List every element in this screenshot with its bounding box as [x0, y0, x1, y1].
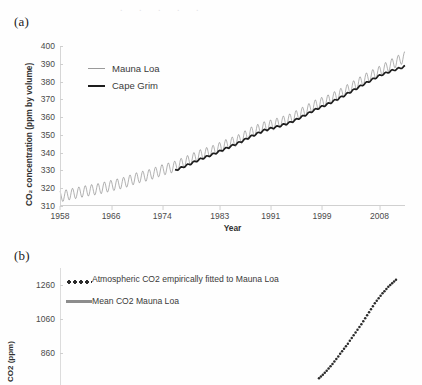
line-swatch-icon	[88, 85, 105, 87]
legend-label: Atmospheric CO2 empirically fitted to Ma…	[92, 274, 279, 285]
panel-a-xtick: 2008	[370, 211, 389, 221]
legend-label: Mean CO2 Mauna Loa	[92, 296, 179, 307]
panel-a-ytick: 390	[41, 59, 60, 69]
panel-a-ytick: 380	[41, 77, 60, 87]
panel-a-label: (a)	[14, 14, 29, 30]
panel-a-x-axis-title: Year	[60, 223, 405, 233]
panel-a-ytick: 360	[41, 112, 60, 122]
panel-b-ytick: 860	[41, 348, 60, 358]
panel-a-xtick: 1983	[210, 211, 229, 221]
line-swatch-icon	[88, 68, 105, 69]
legend-item-mean-co2-mauna-loa: Mean CO2 Mauna Loa	[66, 296, 316, 307]
panel-b-ytick: 1060	[36, 314, 60, 324]
legend-label: Cape Grim	[112, 80, 158, 91]
series-atmospheric-co2-fit	[318, 278, 398, 379]
series-cape-grim	[175, 66, 405, 171]
panel-a-ytick: 400	[41, 41, 60, 51]
panel-a-xtick: 1958	[51, 211, 70, 221]
panel-a-ytick: 310	[41, 201, 60, 211]
legend-item-cape-grim: Cape Grim	[88, 77, 160, 94]
figure-container: . . . . . (a) CO₂ concentration (ppm by …	[0, 0, 422, 385]
panel-a-xtick: 1966	[102, 211, 121, 221]
panel-a-ytick: 340	[41, 148, 60, 158]
panel-b-label: (b)	[14, 248, 30, 264]
panel-b: (b) CO2 (ppm) 1260 1060 860 Atmospheric …	[0, 248, 422, 385]
panel-a-ytick: 330	[41, 165, 60, 175]
panel-a-ytick: 350	[41, 130, 60, 140]
panel-a-xtick: 1991	[261, 211, 280, 221]
panel-a-xtick: 1974	[153, 211, 172, 221]
legend-item-atmospheric-co2-fit: Atmospheric CO2 empirically fitted to Ma…	[66, 274, 316, 285]
legend-label: Mauna Loa	[112, 63, 160, 74]
panel-a-y-axis-title: CO₂ concentration (ppm by volume)	[24, 63, 34, 206]
panel-a: (a) CO₂ concentration (ppm by volume) 40…	[0, 10, 422, 245]
panel-a-y-axis-line	[60, 46, 61, 206]
panel-a-xtick: 1999	[312, 211, 331, 221]
dotted-line-swatch-icon	[66, 276, 92, 285]
panel-a-legend: Mauna Loa Cape Grim	[88, 60, 160, 94]
panel-a-ytick: 320	[41, 183, 60, 193]
legend-item-mauna-loa: Mauna Loa	[88, 60, 160, 77]
solid-line-swatch-icon	[66, 300, 92, 303]
panel-b-ytick: 1260	[36, 280, 60, 290]
panel-b-legend: Atmospheric CO2 empirically fitted to Ma…	[66, 274, 316, 318]
panel-b-y-axis-title: CO2 (ppm)	[6, 341, 15, 382]
panel-a-ytick: 370	[41, 94, 60, 104]
